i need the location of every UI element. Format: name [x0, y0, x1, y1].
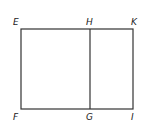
label-h: H: [86, 17, 93, 27]
label-i: I: [131, 112, 134, 122]
label-g: G: [86, 112, 93, 122]
outer-rectangle-efik: [21, 29, 133, 109]
label-k: K: [131, 17, 138, 27]
label-e: E: [13, 17, 19, 27]
rectangle-diagram: E H K F G I: [0, 0, 145, 132]
label-f: F: [13, 112, 19, 122]
